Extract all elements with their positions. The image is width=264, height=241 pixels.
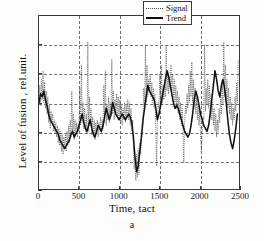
legend-item-signal: Signal — [146, 3, 188, 13]
x-tick-mark-2000 — [200, 186, 201, 190]
x-tick-mark-500 — [78, 186, 79, 190]
x-tick-label-0: 0 — [36, 192, 41, 201]
series-trend-line — [39, 71, 237, 172]
y-tick-mark-10 — [38, 132, 42, 133]
x-axis-title: Time, tact — [0, 202, 264, 214]
y-tick-mark-20 — [38, 103, 42, 104]
x-tick-label-1500: 1500 — [150, 192, 168, 201]
y-tick-mark-30 — [38, 73, 42, 74]
figure-caption: a — [0, 219, 264, 230]
x-tick-label-2500: 2500 — [231, 192, 249, 201]
legend-swatch-signal-icon — [146, 5, 163, 12]
x-tick-label-1000: 1000 — [110, 192, 128, 201]
x-tick-mark-0 — [38, 186, 39, 190]
x-tick-mark-1000 — [119, 186, 120, 190]
series-canvas — [39, 16, 239, 189]
y-axis-title-wrapper: Level of fusion , rel.unit. — [12, 21, 30, 201]
legend-item-trend: Trend — [146, 13, 188, 23]
y-axis-title: Level of fusion , rel.unit. — [16, 53, 28, 168]
legend-swatch-trend-icon — [146, 15, 163, 22]
x-tick-label-500: 500 — [72, 192, 86, 201]
y-tick-mark-0 — [38, 161, 42, 162]
chart-legend: SignalTrend — [143, 1, 192, 25]
y-tick-mark-40 — [38, 44, 42, 45]
x-tick-label-2000: 2000 — [191, 192, 209, 201]
figure-chart-level-of-fusion: -1001020304050 05001000150020002500 Leve… — [0, 0, 264, 241]
x-tick-mark-1500 — [159, 186, 160, 190]
y-tick-mark-50 — [38, 15, 42, 16]
plot-area — [38, 15, 240, 190]
x-tick-mark-2500 — [240, 186, 241, 190]
legend-label-trend: Trend — [166, 14, 186, 23]
legend-label-signal: Signal — [166, 4, 188, 13]
